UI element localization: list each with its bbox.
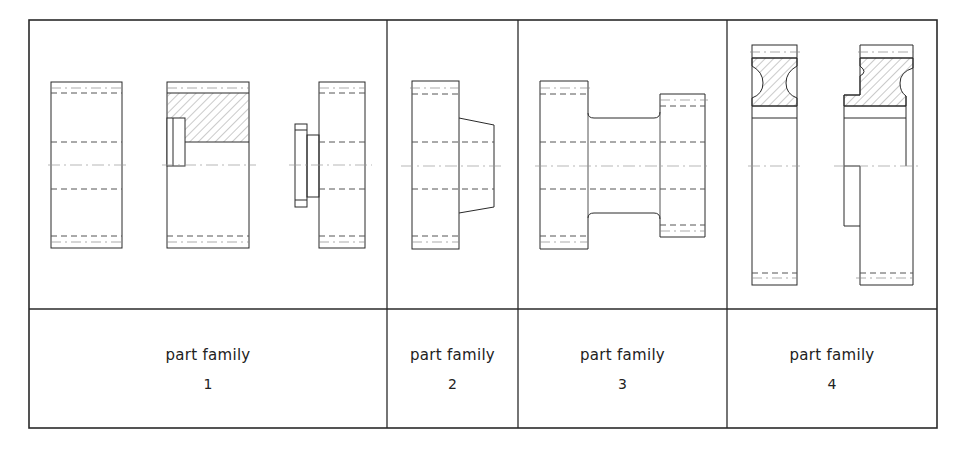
family-2-title: part family [410,346,495,364]
family-1-title: part family [165,346,250,364]
family-4-part-a [748,45,800,285]
family-1-part-a [48,82,126,248]
family-4-title: part family [789,346,874,364]
family-4-drawings [748,45,922,285]
family-2-number: 2 [448,376,457,392]
family-2-part-a [401,81,501,249]
family-1-part-b [162,82,256,248]
family-4-label: part family 4 [727,309,937,428]
family-4-part-b [834,45,922,285]
family-2-drawings [401,81,501,249]
family-1-label: part family 1 [29,309,387,428]
family-3-drawings [535,81,710,249]
family-3-label: part family 3 [518,309,727,428]
family-3-title: part family [580,346,665,364]
family-1-drawings [48,82,372,248]
family-3-number: 3 [618,376,627,392]
family-1-part-c [289,82,372,248]
family-4-number: 4 [827,376,836,392]
family-2-label: part family 2 [387,309,518,428]
family-3-part-a [535,81,710,249]
family-1-number: 1 [203,376,212,392]
